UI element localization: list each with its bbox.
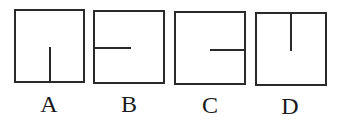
option-c-line xyxy=(210,49,246,51)
option-a-square xyxy=(14,9,85,83)
option-a-line xyxy=(49,47,51,83)
option-b-square xyxy=(93,10,165,84)
option-b-label: B xyxy=(93,92,165,116)
option-a-label: A xyxy=(13,92,85,116)
option-d-line xyxy=(290,14,292,51)
option-d-square xyxy=(255,12,327,86)
option-d-label: D xyxy=(254,94,326,118)
option-c-square xyxy=(174,11,246,85)
option-c-label: C xyxy=(174,93,246,117)
option-b-line xyxy=(95,47,131,49)
